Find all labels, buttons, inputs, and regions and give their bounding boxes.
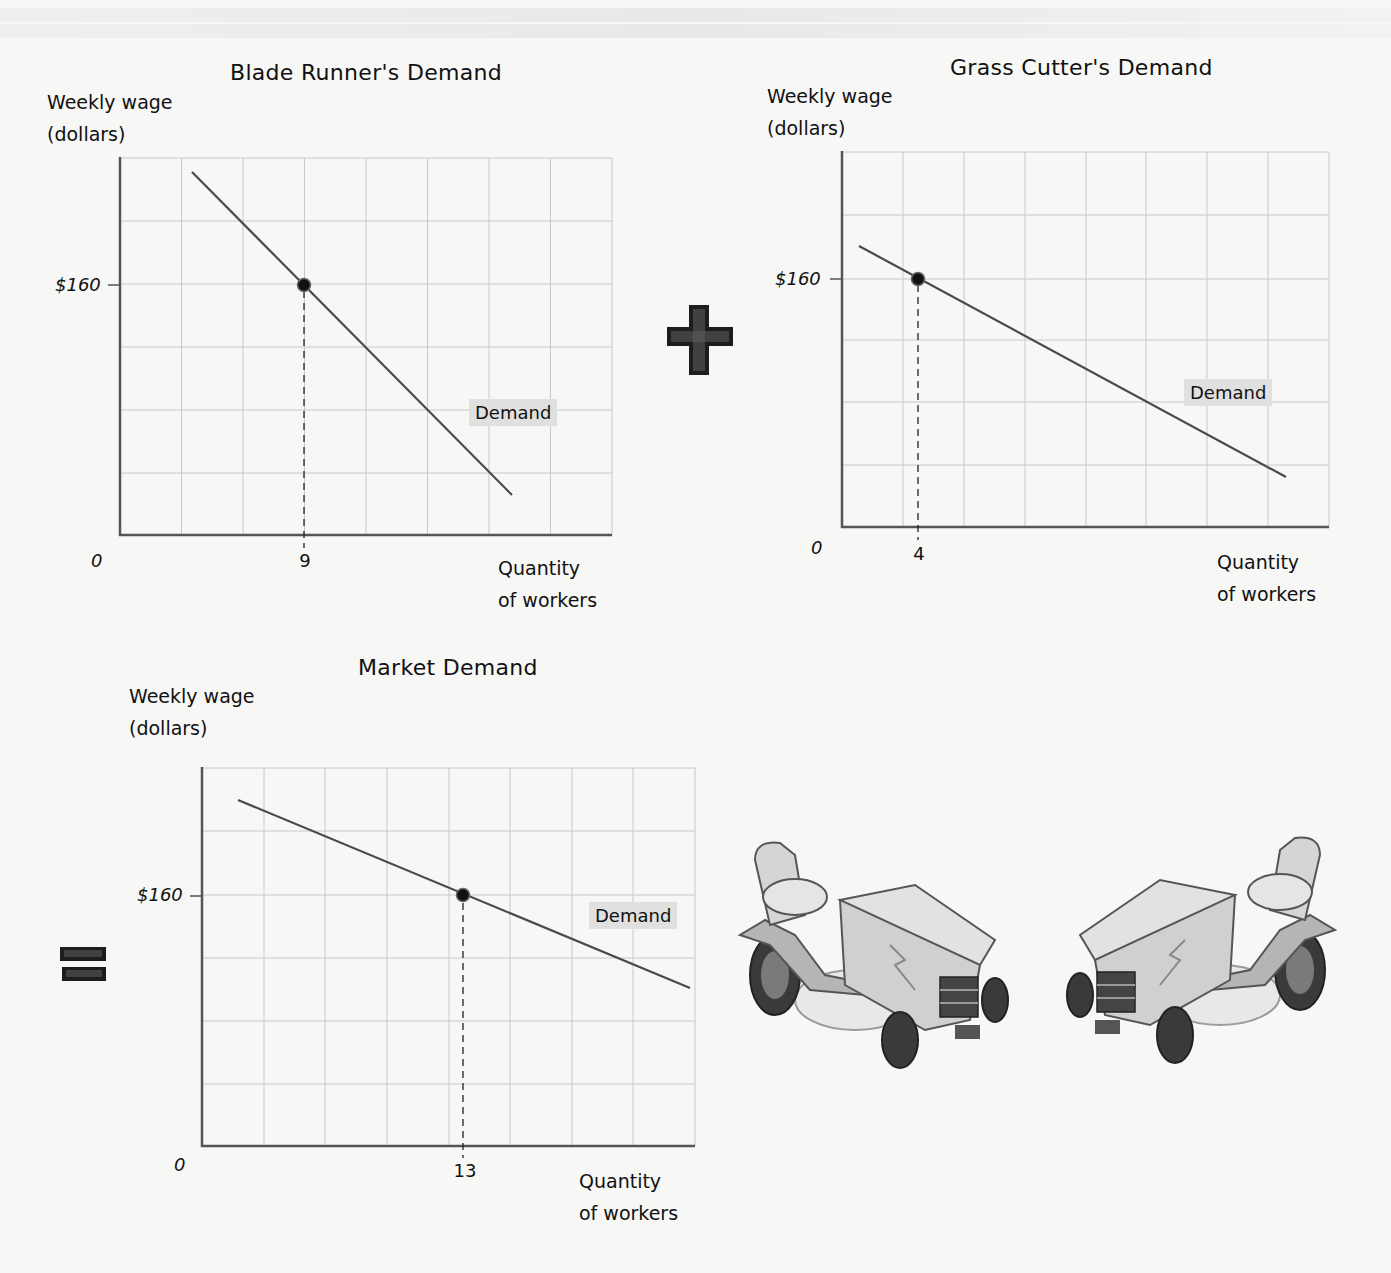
lawnmower-right-illustration xyxy=(1050,820,1360,1070)
origin-label: 0 xyxy=(174,1154,185,1175)
y-tick-label: $160 xyxy=(137,884,183,905)
equals-sign-icon xyxy=(58,945,110,985)
axes xyxy=(201,767,695,1147)
grid xyxy=(202,768,695,1146)
x-tick-label: 13 xyxy=(454,1160,477,1181)
plot-area xyxy=(0,0,1391,1273)
x-axis-label: Quantity of workers xyxy=(579,1165,678,1229)
equilibrium-point xyxy=(457,889,470,902)
demand-legend-label: Demand xyxy=(589,902,677,929)
lawnmower-left-illustration xyxy=(715,825,1025,1075)
